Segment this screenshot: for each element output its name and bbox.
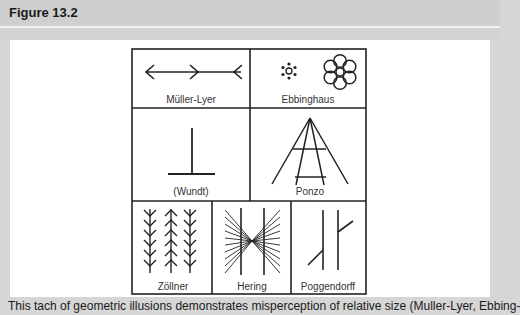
- label-zollner: Zöllner: [158, 281, 189, 292]
- wundt-figure: [168, 128, 215, 174]
- hering-figure: [225, 208, 280, 275]
- header-band: [0, 28, 500, 40]
- label-hering: Hering: [237, 281, 266, 292]
- label-ebbinghaus: Ebbinghaus: [282, 94, 335, 105]
- figure-title: Figure 13.2: [9, 5, 78, 20]
- poggendorff-figure: [308, 210, 353, 270]
- figure-header: Figure 13.2: [0, 0, 500, 26]
- zollner-figure: [144, 209, 196, 273]
- label-muller-lyer: Müller-Lyer: [166, 94, 216, 105]
- label-poggendorff: Poggendorff: [301, 281, 356, 292]
- figure-caption: This tach of geometric illusions demonst…: [8, 299, 520, 313]
- muller-lyer-figure: [146, 65, 242, 79]
- ponzo-figure: [272, 118, 348, 185]
- figure-panel: Müller-Lyer Ebbinghaus: [10, 40, 490, 297]
- illusions-diagram: Müller-Lyer Ebbinghaus: [10, 40, 490, 297]
- label-wundt: (Wundt): [173, 186, 208, 197]
- label-ponzo: Ponzo: [296, 186, 325, 197]
- ebbinghaus-figure: [281, 55, 355, 90]
